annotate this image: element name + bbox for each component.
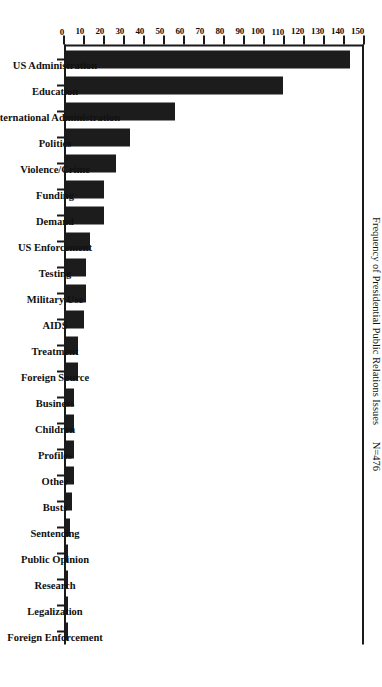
bar-slot [66, 436, 364, 462]
value-axis-tick [143, 35, 145, 44]
bar-slot [66, 202, 364, 228]
category-label-slot: International Administration [6, 98, 56, 124]
chart-page: Frequency of Presidential Public Relatio… [0, 0, 382, 687]
bar-slot [66, 228, 364, 254]
category-axis-label: Legalization [27, 605, 82, 616]
axis-title-row: Frequency of Presidential Public Relatio… [371, 0, 382, 687]
category-label-slot: Public Opinion [6, 540, 56, 566]
category-label-slot: Funding [6, 176, 56, 202]
category-axis-labels: US AdministrationEducationInternational … [6, 46, 56, 644]
bar-slot [66, 46, 364, 72]
category-axis-label: International Administration [0, 111, 120, 122]
value-axis-tick-label: 140 [331, 26, 344, 36]
bar-slot [66, 410, 364, 436]
value-axis-tick-label: 0 [60, 26, 64, 36]
bar-slot [66, 150, 364, 176]
bar [66, 128, 130, 147]
category-label-slot: Other [6, 462, 56, 488]
bar-slot [66, 254, 364, 280]
bar-slot [66, 176, 364, 202]
bar-slot [66, 540, 364, 566]
category-label-slot: Testing [6, 254, 56, 280]
category-axis-label: Military Use [27, 293, 83, 304]
category-label-slot: Business [6, 384, 56, 410]
category-label-slot: US Administration [6, 46, 56, 72]
value-axis-tick-label: 60 [175, 26, 184, 36]
category-label-slot: Foreign Enforcement [6, 618, 56, 644]
category-axis-label: Treatment [32, 345, 79, 356]
value-axis-tick-label: 20 [95, 26, 104, 36]
value-axis-title: Frequency of Presidential Public Relatio… [371, 217, 382, 425]
category-axis-label: Foreign Source [21, 371, 89, 382]
category-axis-label: Profiles [38, 449, 72, 460]
category-label-slot: Research [6, 566, 56, 592]
category-axis-label: Politics [39, 137, 72, 148]
value-axis-tick [183, 35, 185, 44]
category-axis-label: Busts [43, 501, 68, 512]
value-axis-tick-label: 70 [195, 26, 204, 36]
category-axis-label: Business [36, 397, 75, 408]
value-axis-tick [243, 35, 245, 44]
plot-area [64, 44, 364, 644]
category-label-slot: Sentencing [6, 514, 56, 540]
category-axis-label: Education [32, 85, 78, 96]
category-axis-label: Demand [36, 215, 74, 226]
category-label-slot: US Enforcement [6, 228, 56, 254]
category-label-slot: Demand [6, 202, 56, 228]
value-axis-tick-label: 10 [75, 26, 84, 36]
category-axis-label: Testing [39, 267, 71, 278]
category-label-slot: Education [6, 72, 56, 98]
category-axis-label: Research [34, 579, 75, 590]
bar-slot [66, 618, 364, 644]
category-axis-label: Other [42, 475, 69, 486]
category-axis-label: US Administration [13, 59, 97, 70]
bar-slot [66, 592, 364, 618]
bar-slot [66, 462, 364, 488]
value-axis-tick [163, 35, 165, 44]
value-axis-tick-label: 80 [215, 26, 224, 36]
bar-chart-figure: Frequency of Presidential Public Relatio… [0, 0, 382, 687]
category-axis-label: Funding [36, 189, 74, 200]
value-axis-tick-label: 90 [235, 26, 244, 36]
value-axis-tick-label: 150 [351, 26, 364, 36]
bar [66, 76, 283, 95]
value-axis-tick-label: 110 [272, 26, 284, 36]
value-axis-tick [223, 35, 225, 44]
category-label-slot: Treatment [6, 332, 56, 358]
value-axis-tick-label: 40 [135, 26, 144, 36]
value-axis-tick-label: 50 [155, 26, 164, 36]
category-axis-label: US Enforcement [18, 241, 92, 252]
bar-slot [66, 72, 364, 98]
bars-container [66, 46, 364, 644]
category-axis-label: Foreign Enforcement [7, 631, 103, 642]
value-axis-tick [103, 35, 105, 44]
value-axis-tick [123, 35, 125, 44]
bar-slot [66, 332, 364, 358]
category-label-slot: Foreign Source [6, 358, 56, 384]
bar [66, 50, 350, 69]
value-axis-tick-label: 130 [311, 26, 324, 36]
rotated-figure-wrapper: Frequency of Presidential Public Relatio… [0, 0, 382, 687]
category-label-slot: AIDS [6, 306, 56, 332]
value-axis-tick [83, 35, 85, 44]
bar-slot [66, 566, 364, 592]
bar-slot [66, 358, 364, 384]
category-axis-label: Public Opinion [21, 553, 89, 564]
category-axis-label: Children [35, 423, 75, 434]
bar-slot [66, 306, 364, 332]
sample-size-annotation: N=476 [371, 441, 382, 470]
bar-slot [66, 514, 364, 540]
category-label-slot: Busts [6, 488, 56, 514]
value-axis-tick [203, 35, 205, 44]
category-label-slot: Legalization [6, 592, 56, 618]
category-label-slot: Children [6, 410, 56, 436]
bar-slot [66, 488, 364, 514]
bar-slot [66, 384, 364, 410]
bar-slot [66, 280, 364, 306]
bar [66, 310, 84, 329]
value-axis-tick-label: 100 [251, 26, 264, 36]
category-label-slot: Violence/Crime [6, 150, 56, 176]
bar-slot [66, 124, 364, 150]
category-axis-label: AIDS [42, 319, 67, 330]
value-axis-tick-label: 30 [115, 26, 124, 36]
